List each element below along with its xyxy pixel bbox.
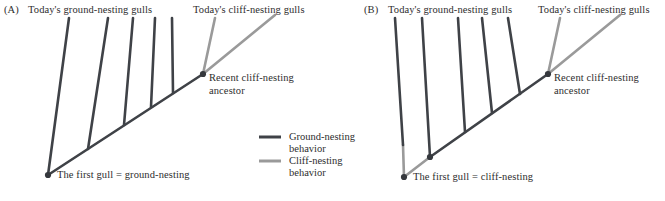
legend-item-ground-nesting: Ground-nesting behavior: [289, 131, 375, 154]
panel-a-top-right-label: Today's cliff-nesting gulls: [193, 4, 305, 16]
figure-root: (A) Today's ground-nesting gulls Today's…: [0, 0, 665, 201]
panel-b-top-left-label: Today's ground-nesting gulls: [388, 4, 512, 16]
panel-a-ground-branch-3: [124, 18, 133, 125]
panel-b-ground-branch-2: [422, 18, 430, 157]
panel-a-spine: [48, 74, 203, 175]
panel-b-root-gray-stem-left: [403, 145, 404, 177]
panel-a-ground-branch-1: [48, 18, 69, 175]
panel-b-ground-branch-5: [508, 18, 520, 94]
panel-a-top-left-label: Today's ground-nesting gulls: [28, 4, 152, 16]
panel-b-letter: (B): [364, 4, 378, 16]
panel-b-root-label: The first gull = cliff-nesting: [413, 171, 533, 183]
panel-b-second-node: [427, 154, 433, 160]
panel-b-ground-branch-3: [458, 18, 465, 132]
panel-b-top-right-label: Today's cliff-nesting gulls: [538, 4, 650, 16]
panel-a-ancestor-node: [200, 71, 206, 77]
panel-a-letter: (A): [4, 4, 19, 16]
legend-item-ground-nesting-line2: behavior: [289, 143, 326, 154]
panel-b-ancestor-node: [545, 71, 551, 77]
legend-item-cliff-nesting-line2: behavior: [289, 167, 326, 178]
legend-item-cliff-nesting: Cliff-nesting behavior: [289, 155, 375, 178]
legend-item-cliff-nesting-line1: Cliff-nesting: [289, 155, 342, 166]
panel-a-ground-branch-5: [172, 18, 173, 93]
panel-b-root-node: [401, 174, 407, 180]
legend-item-ground-nesting-line1: Ground-nesting: [289, 131, 355, 142]
panel-a-ground-branch-2: [88, 18, 108, 149]
panel-b-ground-branch-4: [482, 18, 492, 113]
panel-a-root-node: [45, 172, 51, 178]
panel-a-ancestor-label-line2: ancestor: [209, 85, 245, 97]
panel-a-root-label: The first gull = ground-nesting: [57, 169, 190, 181]
legend-swatches: [259, 137, 281, 161]
panel-b-ancestor-label-line1: Recent cliff-nesting: [554, 72, 639, 84]
panel-a-ground-branch-4: [151, 18, 155, 107]
panel-a-ancestor-label-line1: Recent cliff-nesting: [209, 72, 294, 84]
panel-b-tree: [395, 15, 620, 180]
panel-b-ancestor-label-line2: ancestor: [554, 85, 590, 97]
panel-b-ground-branch-1: [395, 18, 403, 145]
